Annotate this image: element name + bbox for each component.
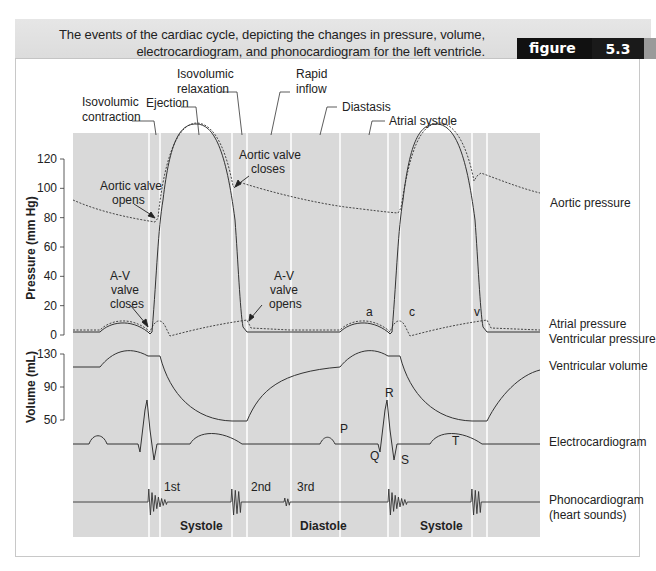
atrial-wave-c: c [409, 305, 415, 319]
series-label-ventricular-pressure: Ventricular pressure [549, 332, 656, 346]
annotation-av-valve-opens-3: opens [269, 297, 302, 311]
pressure-ticks: 120100806040200 [37, 152, 64, 342]
period-systole-2: Systole [420, 519, 463, 533]
series-label-ventricular-volume: Ventricular volume [549, 359, 648, 373]
leader-diastasis [320, 107, 337, 135]
pressure-tick-label: 40 [44, 269, 58, 283]
ecg-label-s: S [401, 453, 409, 467]
leader-atrial-systole [369, 121, 385, 135]
annotation-av-valve-closes-3: closes [110, 297, 144, 311]
label-isovolumic-relaxation-1: Isovolumic [177, 67, 234, 81]
annotation-av-valve-closes-1: A-V [110, 269, 130, 283]
cardiac-cycle-diagram: Isovolumic contraction Ejection Isovolum… [0, 0, 656, 571]
pressure-tick-label: 100 [37, 181, 57, 195]
label-atrial-systole: Atrial systole [389, 114, 457, 128]
atrial-wave-v: v [474, 305, 480, 319]
annotation-av-valve-closes-2: valve [111, 283, 139, 297]
ecg-label-q: Q [370, 449, 379, 463]
label-rapid-inflow-2: inflow [296, 82, 327, 96]
label-isovolumic-contraction-1: Isovolumic [82, 95, 139, 109]
pressure-tick-label: 60 [44, 240, 58, 254]
annotation-aortic-valve-closes-1: Aortic valve [239, 148, 301, 162]
volume-ticks: 1309050 [37, 347, 64, 427]
heart-sound-1st: 1st [164, 480, 181, 494]
pressure-tick-label: 120 [37, 152, 57, 166]
annotation-aortic-valve-closes-2: closes [251, 162, 285, 176]
pressure-tick-label: 0 [50, 328, 57, 342]
label-ejection: Ejection [146, 96, 189, 110]
ecg-label-t: T [452, 434, 460, 448]
series-label-phonocardiogram-2: (heart sounds) [549, 508, 626, 522]
leader-rapid-inflow [271, 92, 290, 135]
series-label-phonocardiogram-1: Phonocardiogram [549, 493, 644, 507]
series-label-electrocardiogram: Electrocardiogram [549, 435, 646, 449]
annotation-aortic-valve-opens-2: opens [112, 193, 145, 207]
annotation-av-valve-opens-1: A-V [274, 269, 294, 283]
heart-sound-2nd: 2nd [251, 480, 271, 494]
label-rapid-inflow-1: Rapid [296, 67, 327, 81]
label-diastasis: Diastasis [342, 100, 391, 114]
period-diastole: Diastole [300, 519, 347, 533]
label-isovolumic-contraction-2: contraction [82, 110, 141, 124]
pressure-axis-label: Pressure (mm Hg) [24, 196, 38, 299]
leader-isovolumic-relaxation [221, 92, 242, 135]
leader-ejection [181, 107, 199, 135]
series-label-atrial-pressure: Atrial pressure [549, 317, 627, 331]
volume-tick-label: 50 [44, 413, 58, 427]
heart-sound-3rd: 3rd [297, 480, 314, 494]
volume-tick-label: 130 [37, 347, 57, 361]
period-systole-1: Systole [180, 519, 223, 533]
volume-axis-label: Volume (mL) [24, 351, 38, 423]
pressure-tick-label: 20 [44, 299, 58, 313]
volume-tick-label: 90 [44, 380, 58, 394]
label-isovolumic-relaxation-2: relaxation [177, 82, 229, 96]
ecg-label-p: P [340, 422, 348, 436]
series-label-aortic-pressure: Aortic pressure [550, 196, 631, 210]
ecg-label-r: R [385, 386, 394, 400]
atrial-wave-a: a [366, 305, 373, 319]
annotation-av-valve-opens-2: valve [270, 283, 298, 297]
pressure-tick-label: 80 [44, 211, 58, 225]
annotation-aortic-valve-opens-1: Aortic valve [100, 179, 162, 193]
